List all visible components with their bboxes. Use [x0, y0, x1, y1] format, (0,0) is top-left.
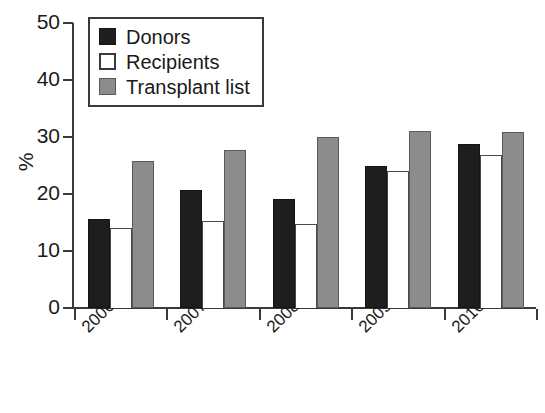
bar-recipients: [387, 171, 409, 308]
legend-swatch-recipients: [99, 53, 116, 70]
y-tick-label-text: 0: [20, 296, 60, 317]
y-tick-label-text: 50: [20, 11, 60, 32]
x-tick-mark: [259, 309, 261, 320]
y-tick-mark: [63, 136, 73, 138]
bar-donors: [88, 219, 110, 308]
y-tick-label: 10: [16, 239, 60, 260]
bar-group: [444, 23, 536, 308]
y-tick-label: 50: [16, 11, 60, 32]
bar-donors: [273, 199, 295, 308]
legend-label: Donors: [126, 27, 190, 47]
y-tick-label: 30: [16, 125, 60, 146]
legend-label: Recipients: [126, 52, 219, 72]
y-tick-mark: [63, 22, 73, 24]
legend-swatch-donors: [99, 28, 116, 45]
bar-recipients: [110, 228, 132, 308]
bar-donors: [365, 166, 387, 309]
y-tick-mark: [63, 307, 73, 309]
x-tick-mark: [536, 309, 538, 320]
y-tick-label: 20: [16, 182, 60, 203]
y-tick-mark: [63, 250, 73, 252]
bar-group: [259, 23, 351, 308]
legend-item: Transplant list: [99, 74, 250, 99]
x-tick-mark: [351, 309, 353, 320]
bar-group: [351, 23, 443, 308]
y-tick-label-text: 40: [20, 68, 60, 89]
x-tick-mark: [166, 309, 168, 320]
y-tick-label-text: 30: [20, 125, 60, 146]
x-tick-mark: [444, 309, 446, 320]
bar-chart-figure: % 01020304050 2006-20072007-20082008-200…: [0, 0, 545, 413]
y-tick-label: 40: [16, 68, 60, 89]
legend-item: Recipients: [99, 49, 250, 74]
y-tick-mark: [63, 79, 73, 81]
chart-legend: DonorsRecipientsTransplant list: [88, 17, 264, 107]
y-tick-label-text: 10: [20, 239, 60, 260]
legend-swatch-transplant: [99, 78, 116, 95]
bar-transplant: [224, 150, 246, 308]
y-tick-mark: [63, 193, 73, 195]
legend-label: Transplant list: [126, 77, 250, 97]
bar-transplant: [317, 137, 339, 308]
bar-recipients: [295, 224, 317, 308]
bar-recipients: [480, 155, 502, 308]
y-tick-label: 0: [16, 296, 60, 317]
bar-transplant: [409, 131, 431, 308]
bar-recipients: [202, 221, 224, 308]
bar-transplant: [502, 132, 524, 308]
x-tick-mark: [74, 309, 76, 320]
bar-transplant: [132, 161, 154, 308]
legend-item: Donors: [99, 24, 250, 49]
bar-donors: [458, 144, 480, 308]
bar-donors: [180, 190, 202, 308]
y-tick-label-text: 20: [20, 182, 60, 203]
